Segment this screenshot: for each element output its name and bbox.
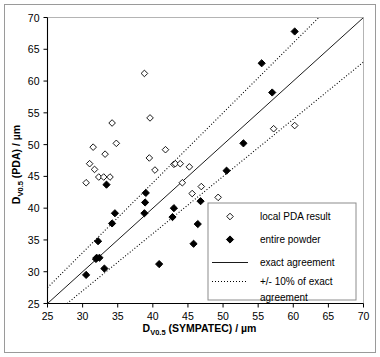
x-axis-title: DV0.5 (SYMPATEC) / µm [143, 322, 257, 337]
legend-label-1: entire powder [260, 234, 321, 245]
x-tick-label: 60 [287, 310, 299, 322]
legend-label-3-line2: agreement [260, 292, 308, 303]
y-tick-label: 70 [28, 12, 40, 24]
legend-label-3: +/- 10% of exact [260, 276, 333, 287]
x-tick-label: 55 [252, 310, 264, 322]
y-tick-label: 30 [28, 266, 40, 278]
y-tick-label: 40 [28, 202, 40, 214]
x-tick-label: 45 [182, 310, 194, 322]
x-tick-label: 25 [42, 310, 54, 322]
x-tick-label: 70 [358, 310, 370, 322]
x-tick-label: 30 [77, 310, 89, 322]
y-axis-title: DV0.5 (PDA) / µm [10, 125, 25, 204]
legend-label-0: local PDA result [260, 211, 331, 222]
legend-label-2: exact agreement [260, 257, 335, 268]
chart-legend: local PDA resultentire powderexact agree… [208, 203, 356, 303]
chart-figure: 2530354045505560657025303540455055606570… [0, 0, 380, 357]
x-tick-label: 35 [112, 310, 124, 322]
y-tick-label: 45 [28, 170, 40, 182]
y-tick-label: 65 [28, 43, 40, 55]
y-tick-label: 35 [28, 234, 40, 246]
x-tick-label: 65 [323, 310, 335, 322]
y-tick-label: 25 [28, 298, 40, 310]
y-tick-label: 60 [28, 75, 40, 87]
y-tick-label: 50 [28, 139, 40, 151]
x-tick-label: 40 [147, 310, 159, 322]
scatter-plot: 2530354045505560657025303540455055606570… [0, 0, 380, 357]
x-tick-label: 50 [217, 310, 229, 322]
y-tick-label: 55 [28, 107, 40, 119]
